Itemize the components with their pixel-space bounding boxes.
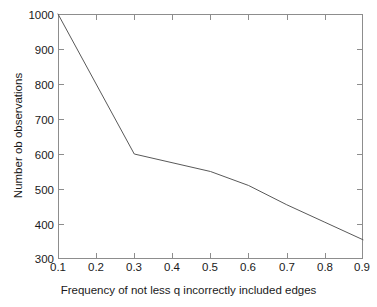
xtick-mark-top	[134, 15, 135, 20]
xtick-label: 0.7	[267, 261, 307, 273]
xtick-label: 0.3	[114, 261, 154, 273]
y-axis-title: Number ob observations	[12, 56, 25, 216]
ytick-mark-right	[357, 154, 362, 155]
ytick-mark-right	[357, 224, 362, 225]
xtick-mark	[134, 253, 135, 258]
ytick-mark-right	[357, 49, 362, 50]
ytick-mark	[59, 49, 64, 50]
ytick-mark	[59, 84, 64, 85]
xtick-mark	[172, 253, 173, 258]
ytick-mark-right	[357, 119, 362, 120]
xtick-mark-top	[325, 15, 326, 20]
xtick-mark	[96, 253, 97, 258]
xtick-label: 0.2	[76, 261, 116, 273]
chart-figure: 1000 900 800 700 600 500 400 300 0.1 0.2…	[0, 0, 377, 307]
ytick-mark-right	[357, 189, 362, 190]
ytick-label: 1000	[12, 9, 54, 21]
xtick-mark	[325, 253, 326, 258]
ytick-mark	[59, 258, 64, 259]
xtick-mark	[287, 253, 288, 258]
xtick-mark	[210, 253, 211, 258]
xtick-label: 0.4	[152, 261, 192, 273]
xtick-mark-top	[172, 15, 173, 20]
xtick-label: 0.5	[190, 261, 230, 273]
xtick-label: 0.9	[342, 261, 377, 273]
ytick-mark	[59, 154, 64, 155]
xtick-label: 0.6	[228, 261, 268, 273]
xtick-mark	[58, 253, 59, 258]
ytick-mark	[59, 224, 64, 225]
xtick-mark-top	[248, 15, 249, 20]
xtick-mark	[362, 253, 363, 258]
ytick-mark	[59, 189, 64, 190]
x-axis-title: Frequency of not less q incorrectly incl…	[0, 284, 377, 297]
ytick-mark	[59, 119, 64, 120]
data-line-layer	[58, 14, 363, 259]
xtick-mark-top	[96, 15, 97, 20]
xtick-mark-top	[210, 15, 211, 20]
ytick-label: 400	[12, 219, 54, 231]
xtick-label: 0.8	[305, 261, 345, 273]
ytick-mark-right	[357, 84, 362, 85]
ytick-mark	[59, 14, 64, 15]
series-line-observations	[58, 14, 363, 240]
xtick-mark	[248, 253, 249, 258]
xtick-mark-top	[287, 15, 288, 20]
xtick-label: 0.1	[38, 261, 78, 273]
ytick-label: 900	[12, 44, 54, 56]
